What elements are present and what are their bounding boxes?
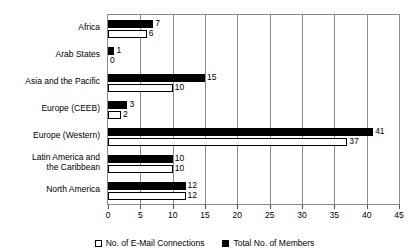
axis-tick-label: 40 [362, 210, 371, 220]
legend-swatch-email [95, 240, 102, 247]
bar-value-label: 10 [175, 164, 184, 173]
plot-area: 7610151032413710101212 [107, 14, 400, 205]
axis-tick [140, 205, 141, 209]
axis-tick-label: 30 [297, 210, 306, 220]
chart-legend: No. of E-Mail ConnectionsTotal No. of Me… [0, 236, 409, 250]
axis-tick [367, 205, 368, 209]
axis-tick-label: 35 [330, 210, 339, 220]
category-axis-labels: AfricaArab StatesAsia and the PacificEur… [0, 14, 104, 205]
axis-tick-label: 15 [200, 210, 209, 220]
bar-email [108, 165, 173, 173]
bar-email [108, 192, 186, 200]
axis-tick-label: 20 [233, 210, 242, 220]
gridline [270, 15, 271, 204]
bar-value-label: 3 [129, 100, 134, 109]
bar-members [108, 128, 373, 136]
axis-tick [237, 205, 238, 209]
bar-value-label: 41 [375, 127, 384, 136]
bar-members [108, 182, 186, 190]
bar-members [108, 74, 205, 82]
category-label: Arab States [0, 50, 100, 60]
bar-value-label: 12 [188, 181, 197, 190]
bar-value-label: 0 [110, 56, 115, 65]
category-label: Latin America and the Caribbean [0, 153, 100, 172]
x-axis: 051015202530354045 [107, 205, 400, 225]
bar-members [108, 20, 153, 28]
axis-tick [205, 205, 206, 209]
bar-value-label: 37 [349, 137, 358, 146]
gridline [399, 15, 400, 204]
bar-value-label: 1 [116, 46, 121, 55]
bar-value-label: 12 [188, 191, 197, 200]
bar-members [108, 101, 127, 109]
axis-tick [334, 205, 335, 209]
bar-chart: AfricaArab StatesAsia and the PacificEur… [0, 0, 409, 250]
bar-email [108, 84, 173, 92]
gridline [140, 15, 141, 204]
gridline [205, 15, 206, 204]
axis-tick [108, 205, 109, 209]
legend-label: No. of E-Mail Connections [106, 238, 205, 248]
bar-value-label: 15 [207, 73, 216, 82]
category-label: North America [0, 185, 100, 195]
gridline [334, 15, 335, 204]
axis-tick-label: 25 [265, 210, 274, 220]
axis-tick-label: 10 [168, 210, 177, 220]
legend-item: No. of E-Mail Connections [95, 238, 205, 248]
gridline [237, 15, 238, 204]
bar-email [108, 30, 147, 38]
bar-value-label: 2 [123, 110, 128, 119]
legend-item: Total No. of Members [222, 238, 314, 248]
bar-value-label: 6 [149, 29, 154, 38]
axis-tick [173, 205, 174, 209]
category-label: Europe (CEEB) [0, 104, 100, 114]
bar-members [108, 155, 173, 163]
bar-email [108, 111, 121, 119]
gridline [302, 15, 303, 204]
axis-tick-label: 45 [394, 210, 403, 220]
bar-email [108, 138, 347, 146]
axis-tick [270, 205, 271, 209]
legend-swatch-members [222, 240, 229, 247]
category-label: Africa [0, 23, 100, 33]
bar-value-label: 10 [175, 154, 184, 163]
axis-tick-label: 0 [106, 210, 111, 220]
bar-members [108, 47, 114, 55]
axis-tick [399, 205, 400, 209]
axis-tick [302, 205, 303, 209]
bar-value-label: 10 [175, 83, 184, 92]
gridline [367, 15, 368, 204]
gridline [173, 15, 174, 204]
bar-value-label: 7 [155, 19, 160, 28]
category-label: Asia and the Pacific [0, 77, 100, 87]
category-label: Europe (Western) [0, 131, 100, 141]
axis-tick-label: 5 [138, 210, 143, 220]
legend-label: Total No. of Members [233, 238, 314, 248]
